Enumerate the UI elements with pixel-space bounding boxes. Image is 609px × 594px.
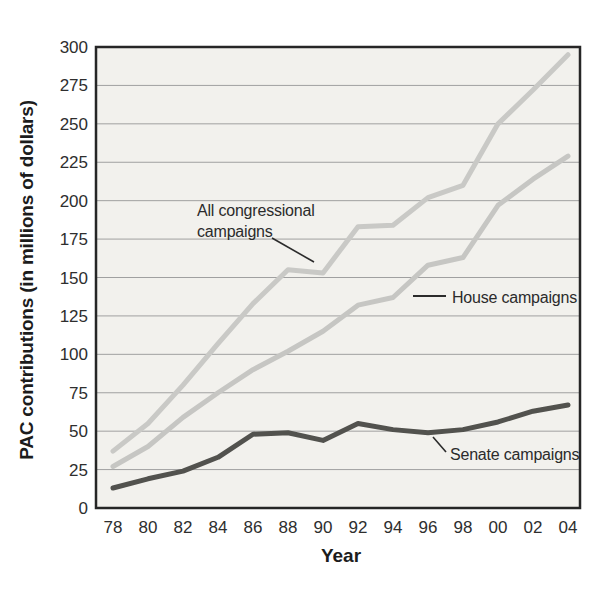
annotation-house-campaigns: House campaigns xyxy=(452,287,577,308)
y-tick-label-50: 50 xyxy=(69,422,88,441)
x-tick-label-82: 82 xyxy=(174,518,193,537)
x-tick-label-90: 90 xyxy=(314,518,333,537)
y-tick-label-225: 225 xyxy=(60,153,88,172)
annotation-all-congressional-campaigns: All congressional campaigns xyxy=(197,200,315,242)
y-axis-title: PAC contributions (in millions of dollar… xyxy=(16,100,38,460)
x-tick-label-84: 84 xyxy=(209,518,228,537)
x-tick-label-78: 78 xyxy=(104,518,123,537)
x-tick-label-02: 02 xyxy=(524,518,543,537)
x-tick-label-98: 98 xyxy=(454,518,473,537)
y-tick-label-125: 125 xyxy=(60,307,88,326)
x-tick-label-88: 88 xyxy=(279,518,298,537)
x-tick-label-96: 96 xyxy=(419,518,438,537)
y-tick-label-275: 275 xyxy=(60,76,88,95)
x-axis-title: Year xyxy=(321,545,361,567)
annotation-senate-campaigns: Senate campaigns xyxy=(450,444,579,465)
pac-contributions-figure: 0255075100125150175200225250275300788082… xyxy=(0,0,609,594)
y-tick-label-75: 75 xyxy=(69,384,88,403)
y-tick-label-150: 150 xyxy=(60,269,88,288)
y-tick-label-0: 0 xyxy=(79,499,88,518)
x-tick-label-94: 94 xyxy=(384,518,403,537)
x-tick-label-00: 00 xyxy=(489,518,508,537)
y-tick-label-300: 300 xyxy=(60,38,88,57)
x-tick-label-92: 92 xyxy=(349,518,368,537)
y-tick-label-100: 100 xyxy=(60,345,88,364)
y-tick-label-25: 25 xyxy=(69,461,88,480)
y-tick-label-200: 200 xyxy=(60,192,88,211)
x-tick-label-04: 04 xyxy=(559,518,578,537)
y-tick-label-175: 175 xyxy=(60,230,88,249)
y-tick-label-250: 250 xyxy=(60,115,88,134)
x-tick-label-80: 80 xyxy=(139,518,158,537)
x-tick-label-86: 86 xyxy=(244,518,263,537)
